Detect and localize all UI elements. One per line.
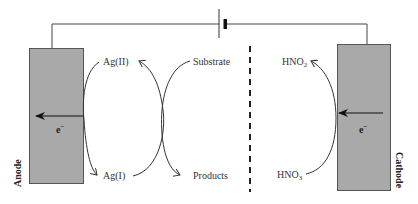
hno2-base: HNO [282,56,304,67]
cathode-electrode [338,45,391,191]
hno2-subscript: 2 [304,61,308,69]
cathode-label: Cathode [394,152,404,188]
ag-i-label: Ag(I) [103,171,125,181]
ag-ii-label: Ag(II) [103,57,129,67]
substrate-oxidation-curve [162,61,190,175]
ag-oxidation-curve [133,61,164,176]
hno3-base: HNO [277,169,299,180]
electrochemical-cell-diagram: Ag(II) Ag(I) Substrate Products HNO2 HNO… [0,0,418,204]
cathode-electron-label: e− [359,124,367,135]
products-label: Products [193,171,228,181]
hno3-label: HNO3 [277,170,302,182]
ag-reduction-curve [83,62,99,175]
anode-electron-charge: − [60,123,64,131]
nitric-reduction-curve [306,61,336,174]
battery-icon [219,9,227,38]
substrate-label: Substrate [193,57,230,67]
anode-electron-label: e− [56,124,64,135]
anode-label: Anode [13,159,23,187]
cathode-electron-charge: − [363,123,367,131]
hno2-label: HNO2 [282,57,307,69]
external-circuit-wire [52,24,367,48]
hno3-subscript: 3 [299,174,303,182]
